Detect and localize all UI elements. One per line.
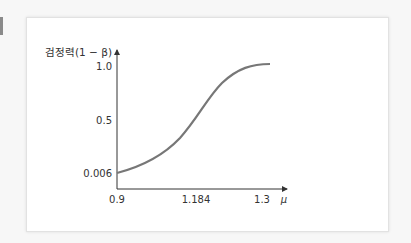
- power-curve-line: [117, 64, 270, 173]
- x-axis-label: μ: [280, 194, 287, 205]
- x-tick-1-3: 1.3: [254, 194, 270, 205]
- x-tick-1-184: 1.184: [182, 194, 211, 205]
- y-tick-0-5: 0.5: [96, 115, 112, 126]
- power-curve-chart: 검정력(1 − β) 1.0 0.5 0.006 0.9 1.184 1.3 μ: [0, 0, 411, 243]
- y-tick-1-0: 1.0: [96, 61, 112, 72]
- y-tick-0-006: 0.006: [83, 168, 112, 179]
- y-axis-label: 검정력(1 − β): [45, 46, 112, 58]
- x-tick-0-9: 0.9: [109, 194, 125, 205]
